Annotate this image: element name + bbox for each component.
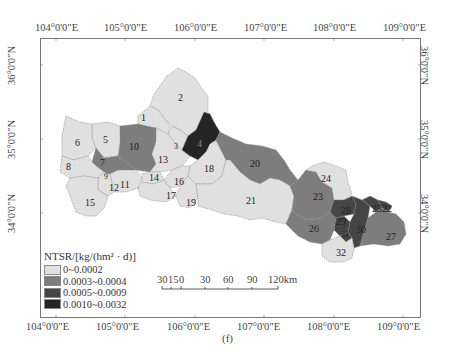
scale-label-30-left: 30 [157,274,168,285]
svg-text:13: 13 [158,154,168,165]
svg-text:29: 29 [336,216,346,227]
scale-label-0: 0 [179,274,184,285]
svg-text:26: 26 [309,223,319,234]
svg-text:11: 11 [120,179,130,190]
svg-text:21: 21 [246,195,256,206]
legend-title: NTSR/[kg/(hm² · d)] [44,250,136,262]
svg-text:28: 28 [341,205,351,216]
legend-item-class4: 0.0010~0.0032 [44,299,136,311]
svg-text:30: 30 [356,224,366,235]
scale-label-30: 30 [200,274,211,285]
svg-text:32: 32 [336,247,346,258]
legend-label: 0.0005~0.0009 [63,287,126,298]
scale-bar-line [162,286,278,289]
svg-text:1: 1 [141,112,146,123]
svg-text:18: 18 [204,163,214,174]
legend-swatch-class2 [44,276,61,286]
svg-text:23: 23 [313,191,323,202]
svg-text:31: 31 [341,230,349,239]
scale-label-60: 60 [223,274,234,285]
svg-text:5: 5 [103,134,108,145]
legend-swatch-class4 [44,299,61,309]
legend-item-class1: 0~0.0002 [44,264,136,276]
scale-label-15: 15 [168,274,179,285]
scale-label-120km: 120km [268,274,297,285]
svg-text:15: 15 [85,197,95,208]
svg-text:22: 22 [382,203,392,214]
svg-text:17: 17 [166,190,176,201]
svg-text:25: 25 [372,203,382,214]
svg-text:19: 19 [186,197,196,208]
legend-label: 0.0010~0.0032 [63,299,126,310]
svg-text:7: 7 [100,157,105,168]
svg-text:4: 4 [197,138,202,149]
legend-label: 0.0003~0.0004 [63,276,126,287]
legend-item-class3: 0.0005~0.0009 [44,287,136,299]
svg-text:12: 12 [109,182,119,193]
legend-item-class2: 0.0003~0.0004 [44,276,136,288]
legend-label: 0~0.0002 [63,264,103,275]
svg-text:24: 24 [321,173,331,184]
region-label-2: 2 [178,92,183,103]
svg-text:8: 8 [66,161,71,172]
svg-text:9: 9 [104,172,108,181]
svg-text:16: 16 [174,176,184,187]
svg-text:6: 6 [75,137,80,148]
svg-text:10: 10 [129,141,139,152]
svg-text:14: 14 [149,172,159,183]
figure-caption: (f) [222,332,233,344]
legend-swatch-class1 [44,265,61,275]
legend: NTSR/[kg/(hm² · d)] 0~0.0002 0.0003~0.00… [44,250,136,310]
scale-label-90: 90 [247,274,258,285]
svg-text:3: 3 [174,142,178,151]
svg-text:27: 27 [386,231,396,242]
svg-text:20: 20 [250,158,260,169]
legend-swatch-class3 [44,288,61,298]
